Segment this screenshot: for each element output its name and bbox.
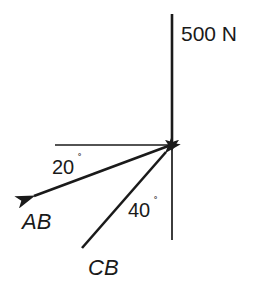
member-ab-label: AB — [20, 209, 51, 234]
angle-40-value: 40 — [128, 199, 150, 221]
applied-load-label: 500 N — [181, 22, 237, 45]
angle-20-value: 20 — [52, 156, 74, 178]
force-diagram-canvas: 500 N 20 ˚ 40 ˚ AB CB — [0, 0, 262, 294]
angle-20-degree-icon: ˚ — [78, 152, 82, 164]
member-cb-label: CB — [88, 255, 119, 280]
force-diagram-svg: 500 N 20 ˚ 40 ˚ AB CB — [0, 0, 262, 294]
angle-40-degree-icon: ˚ — [154, 195, 158, 207]
